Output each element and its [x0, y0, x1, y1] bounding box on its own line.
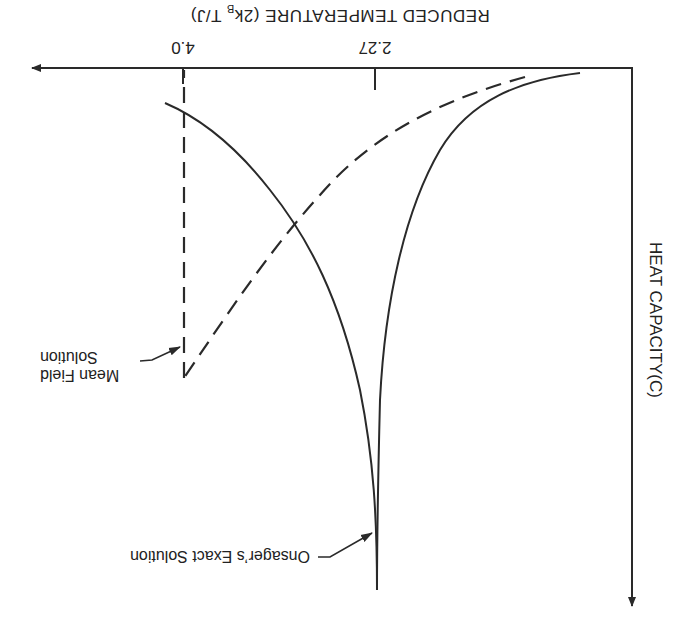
svg-text:Mean Field: Mean Field: [40, 367, 119, 384]
svg-text:Solution: Solution: [40, 349, 98, 366]
onsager-label: Onsager’s Exact Solution: [130, 548, 310, 565]
y-axis-label: HEAT CAPACITY(C): [646, 242, 665, 398]
svg-text:2.27: 2.27: [358, 38, 391, 57]
tick-label-4-0: 4.0: [171, 38, 195, 57]
mean-field-annotation-arrow: [140, 347, 180, 361]
mean-field-curve: [184, 77, 525, 378]
svg-text:REDUCED TEMPERATURE (2kB T/J): REDUCED TEMPERATURE (2kB T/J): [190, 3, 490, 25]
x-axis-label: REDUCED TEMPERATURE (2kB T/J): [190, 3, 490, 25]
heat-capacity-chart: REDUCED TEMPERATURE (2kB T/J) 2.27 4.0 H…: [0, 0, 696, 632]
tick-label-2-27: 2.27: [358, 38, 391, 57]
svg-text:HEAT CAPACITY(C): HEAT CAPACITY(C): [646, 242, 665, 398]
mean-field-label: Mean Field Solution: [40, 349, 119, 384]
onsager-curve-high-t: [165, 103, 377, 590]
svg-text:4.0: 4.0: [171, 38, 195, 57]
svg-text:Onsager’s Exact Solution: Onsager’s Exact Solution: [130, 548, 310, 565]
onsager-curve-low-t: [377, 73, 580, 590]
onsager-annotation-arrow: [318, 533, 372, 557]
